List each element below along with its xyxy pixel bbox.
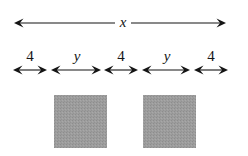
dimension-labels: 4y4y4 (26, 48, 215, 64)
shaded-square-2 (143, 95, 196, 148)
overall-dimension-x: x (14, 14, 226, 30)
segment-arrow-3 (104, 65, 138, 74)
segment-label-2: y (72, 48, 81, 64)
segment-label-5: 4 (207, 48, 215, 64)
segment-dimensions (13, 65, 228, 74)
overall-dimension-label: x (119, 14, 127, 30)
shaded-square-1 (54, 95, 107, 148)
segment-arrow-1 (13, 65, 47, 74)
segment-arrow-5 (194, 65, 228, 74)
diagram-canvas: x 4y4y4 (0, 0, 248, 156)
segment-arrow-4 (142, 65, 190, 74)
shaded-squares (54, 95, 196, 148)
dimension-diagram: x 4y4y4 (0, 0, 248, 156)
segment-label-1: 4 (26, 48, 34, 64)
segment-arrow-2 (51, 65, 101, 74)
segment-label-3: 4 (117, 48, 125, 64)
segment-label-4: y (162, 48, 171, 64)
